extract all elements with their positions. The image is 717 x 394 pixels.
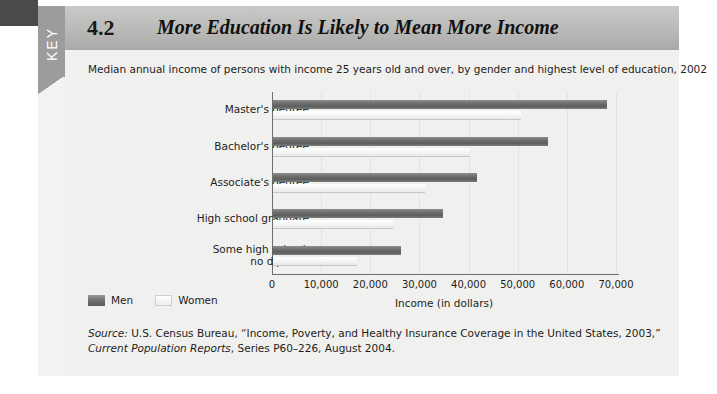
bar-women (273, 184, 425, 193)
chart-x-axis-title: Income (in dollars) (272, 297, 616, 309)
source-label: Source: (88, 327, 128, 339)
x-tick-label: 60,000 (549, 279, 584, 290)
gridline (567, 92, 568, 274)
figure-body: Median annual income of persons with inc… (65, 50, 679, 376)
bar-men (273, 209, 443, 218)
figure-source-note: Source: U.S. Census Bureau, “Income, Pov… (88, 326, 663, 356)
gridline (616, 92, 617, 274)
bar-men (273, 246, 401, 255)
legend-swatch-men (88, 295, 105, 306)
bar-women (273, 111, 521, 120)
x-tick-label: 10,000 (304, 279, 339, 290)
source-publication: Current Population Reports (88, 342, 231, 354)
legend-label-men: Men (111, 294, 133, 306)
x-tick-label: 20,000 (353, 279, 388, 290)
x-tick-label: 0 (269, 279, 275, 290)
chart-x-axis (272, 274, 619, 275)
bar-women (273, 148, 470, 157)
bar-women (273, 220, 393, 229)
bar-men (273, 100, 607, 109)
key-tab-label: KEY (44, 14, 60, 74)
source-text-1: U.S. Census Bureau, “Income, Poverty, an… (128, 327, 661, 339)
bar-men (273, 173, 477, 182)
source-text-2: , Series P60–226, August 2004. (231, 342, 395, 354)
page-corner-mark (0, 0, 38, 26)
bar-chart: Master's degreeBachelor's degreeAssociat… (88, 90, 658, 315)
x-tick-label: 70,000 (599, 279, 634, 290)
figure-title: More Education Is Likely to Mean More In… (157, 16, 559, 39)
figure-subtitle: Median annual income of persons with inc… (88, 63, 707, 75)
legend-label-women: Women (178, 294, 218, 306)
figure-number: 4.2 (87, 15, 115, 41)
legend-swatch-women (155, 295, 172, 306)
x-tick-label: 50,000 (500, 279, 535, 290)
key-tab-fold (38, 77, 65, 96)
x-tick-label: 30,000 (402, 279, 437, 290)
x-tick-label: 40,000 (451, 279, 486, 290)
chart-legend: Men Women (88, 294, 218, 306)
bar-men (273, 137, 548, 146)
figure-screenshot: KEY 4.2 More Education Is Likely to Mean… (0, 0, 717, 394)
bar-women (273, 257, 357, 266)
figure-header-band: 4.2 More Education Is Likely to Mean Mor… (65, 6, 679, 50)
